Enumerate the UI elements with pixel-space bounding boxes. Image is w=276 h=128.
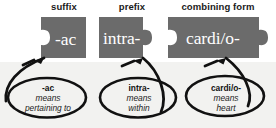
- callout-term-intra: intra-: [104, 83, 174, 93]
- callout-text-cardio: cardi/o- means heart: [188, 83, 264, 113]
- callout-text-ac: -ac means pertaining to: [8, 83, 88, 113]
- callout-term-cardio: cardi/o-: [188, 83, 264, 93]
- callout-definition-ac: pertaining to: [8, 103, 88, 113]
- arrow-tails: [23, 60, 217, 66]
- arrow-tail-intra: [122, 61, 134, 66]
- diagram-canvas: suffix prefix combining form -ac intra- …: [0, 0, 276, 128]
- callout-definition-intra: within: [104, 103, 174, 113]
- callout-text-intra: intra- means within: [104, 83, 174, 113]
- callout-term-ac: -ac: [8, 83, 88, 93]
- callout-connector-intra: means: [104, 93, 174, 103]
- callout-connector-ac: means: [8, 93, 88, 103]
- callout-connector-cardio: means: [188, 93, 264, 103]
- arrow-tail-cardio: [205, 61, 217, 66]
- callout-definition-cardio: heart: [188, 103, 264, 113]
